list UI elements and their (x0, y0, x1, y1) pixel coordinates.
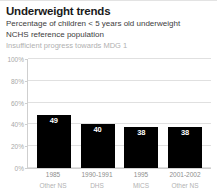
chart-plot-area: 100% 80% 60% 40% 20% 0% (0, 53, 217, 192)
plot-frame: 100% 80% 60% 40% 20% 0% (27, 59, 211, 169)
table-row[interactable]: 40 (81, 124, 115, 168)
bar-slot-2001-2002: 38 (163, 59, 207, 168)
xlabel-source: Other NS (163, 181, 207, 190)
ytick-label-60: 60% (11, 99, 24, 106)
ytick-label-80: 80% (11, 77, 24, 84)
bar-slot-1995: 38 (120, 59, 164, 168)
bar-slot-1985: 49 (32, 59, 76, 168)
chart-subtitle-line2: NCHS reference population (6, 30, 211, 40)
xlabel-year: 1990-1991 (75, 170, 119, 179)
ytick-label-40: 40% (11, 121, 24, 128)
ytick-label-0: 0% (15, 165, 24, 172)
mdg-status-text: Insufficient progress towards MDG 1 (6, 41, 211, 50)
xlabel-2001-2002: 2001-2002 Other NS (163, 170, 207, 190)
chart-header: Underweight trends Percentage of childre… (0, 1, 217, 50)
table-row[interactable]: 38 (124, 127, 158, 168)
xlabel-year: 1995 (119, 170, 163, 179)
bar-value-label: 38 (137, 129, 145, 137)
xlabel-1990-1991: 1990-1991 DHS (75, 170, 119, 190)
bar-slot-1990-1991: 40 (76, 59, 120, 168)
xlabel-source: MICS (119, 181, 163, 190)
underweight-trends-chart-card: Underweight trends Percentage of childre… (0, 0, 217, 192)
bar-group: 49 40 38 38 (28, 59, 211, 168)
table-row[interactable]: 38 (168, 127, 202, 168)
bar-value-label: 49 (50, 117, 58, 125)
page-title: Underweight trends (6, 5, 211, 18)
ytick-label-20: 20% (11, 143, 24, 150)
bar-value-label: 38 (181, 129, 189, 137)
ytick-mark-0 (25, 168, 28, 169)
table-row[interactable]: 49 (37, 115, 71, 168)
xlabel-year: 2001-2002 (163, 170, 207, 179)
xlabel-source: Other NS (31, 181, 75, 190)
bar-value-label: 40 (93, 126, 101, 134)
xlabel-1995: 1995 MICS (119, 170, 163, 190)
chart-subtitle-line1: Percentage of children < 5 years old und… (6, 19, 211, 29)
ytick-label-100: 100% (7, 56, 24, 63)
xlabel-source: DHS (75, 181, 119, 190)
x-axis-labels: 1985 Other NS 1990-1991 DHS 1995 MICS 20… (27, 170, 211, 190)
xlabel-year: 1985 (31, 170, 75, 179)
xlabel-1985: 1985 Other NS (31, 170, 75, 190)
